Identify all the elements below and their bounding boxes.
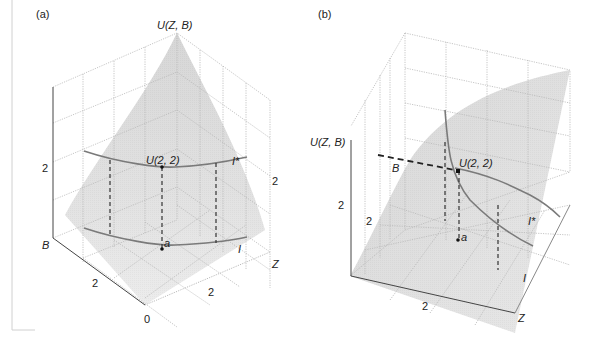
panel-b: (b) U(Z, B) B U(2, 2) a I* I 2 2 2 Z	[310, 8, 570, 333]
i-star-label-a: I*	[232, 155, 240, 167]
tick-z-a: 2	[208, 286, 214, 298]
z-axis-label-a: Z	[271, 258, 280, 270]
panel-a: (a) U(Z, B) U(2, 2) I* a I 2 B 2 2 2 Z 0	[36, 8, 280, 327]
u22-label-a: U(2, 2)	[146, 154, 180, 166]
i-star-label-b: I*	[528, 215, 536, 227]
a-label-b: a	[461, 231, 467, 243]
tick-z-b: 2	[422, 300, 428, 312]
tick-b-a: 2	[92, 277, 98, 289]
b-label-b: B	[392, 162, 399, 174]
point-u22-b	[456, 169, 460, 173]
a-label-a: a	[164, 237, 170, 249]
tick-b-b: 2	[366, 215, 372, 227]
tick-z-vertical-a: 2	[272, 175, 278, 187]
u-axis-title-b: U(Z, B)	[310, 136, 346, 148]
panel-a-label: (a)	[36, 8, 49, 20]
tick-u-b: 2	[338, 199, 344, 211]
u-axis-title-a: U(Z, B)	[157, 19, 193, 31]
i-label-a: I	[238, 243, 241, 255]
tick-u-a: 2	[42, 162, 48, 174]
origin-label-a: 0	[144, 313, 150, 325]
b-axis-label-a: B	[42, 239, 49, 251]
panel-b-label: (b)	[318, 8, 331, 20]
i-label-b: I	[523, 272, 526, 284]
u22-label-b: U(2, 2)	[459, 157, 493, 169]
point-a-b	[456, 238, 460, 242]
figure-canvas: (a) U(Z, B) U(2, 2) I* a I 2 B 2 2 2 Z 0	[0, 0, 593, 342]
z-axis-label-b: Z	[517, 312, 526, 324]
